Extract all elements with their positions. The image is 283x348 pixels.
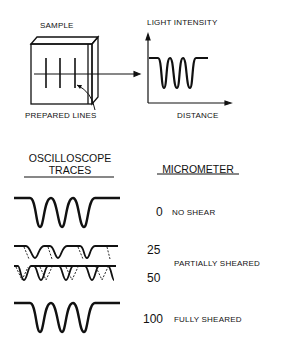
intensity-curve — [149, 58, 208, 88]
micrometer-header: MICROMETER — [157, 163, 239, 175]
oscilloscope-header: OSCILLOSCOPE TRACES — [24, 152, 116, 176]
oscilloscope-header-line2: TRACES — [24, 164, 116, 176]
micrometer-value-100: 100 — [143, 312, 163, 326]
sample-label: SAMPLE — [40, 21, 74, 30]
trace-no-shear — [14, 198, 120, 227]
trace-50 — [14, 266, 116, 280]
prepared-lines — [46, 58, 75, 88]
prepared-lines-label: PREPARED LINES — [25, 111, 97, 120]
micrometer-value-0: 0 — [156, 205, 163, 219]
beam-arrow — [34, 72, 140, 77]
distance-label: DISTANCE — [177, 111, 218, 120]
oscilloscope-header-line1: OSCILLOSCOPE — [24, 152, 116, 164]
partially-sheared-label: PARTIALLY SHEARED — [174, 259, 260, 268]
micrometer-value-50: 50 — [147, 271, 160, 285]
intensity-axes — [146, 34, 231, 105]
no-shear-label: NO SHEAR — [172, 208, 215, 217]
fully-sheared-label: FULLY SHEARED — [174, 315, 242, 324]
trace-fully-sheared — [14, 303, 120, 332]
light-intensity-label: LIGHT INTENSITY — [147, 18, 217, 27]
micrometer-value-25: 25 — [147, 243, 160, 257]
trace-25 — [14, 246, 118, 259]
